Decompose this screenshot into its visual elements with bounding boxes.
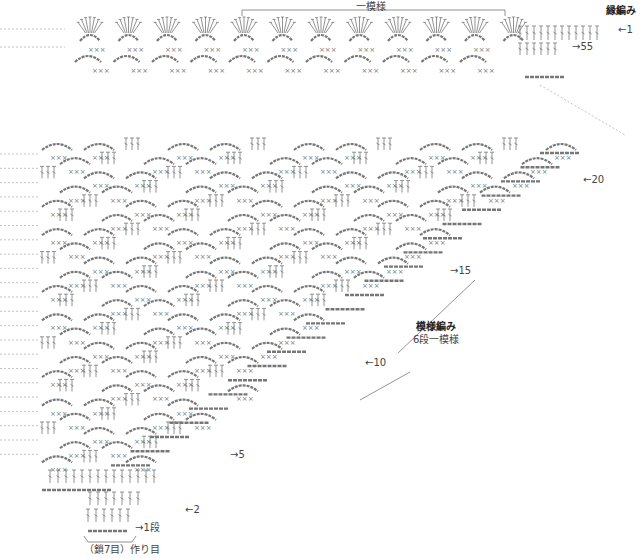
svg-text:×××: ×××	[428, 211, 446, 219]
svg-text:×××: ×××	[134, 353, 152, 361]
svg-text:×××: ×××	[110, 197, 128, 205]
svg-text:×××: ×××	[435, 46, 453, 54]
svg-text:×××: ×××	[152, 424, 170, 432]
svg-text:×××: ×××	[236, 395, 254, 403]
svg-text:×××: ×××	[278, 168, 296, 176]
svg-text:×××: ×××	[386, 268, 404, 276]
svg-text:×××: ×××	[470, 154, 488, 162]
svg-text:×××: ×××	[208, 67, 226, 75]
svg-text:×××: ×××	[152, 253, 170, 261]
svg-text:×××: ×××	[285, 67, 303, 75]
foundation-label: （鎖7目）作り目	[84, 545, 160, 555]
svg-text:×××: ×××	[236, 282, 254, 290]
svg-text:×××: ×××	[439, 67, 457, 75]
svg-text:×××: ×××	[362, 225, 380, 233]
row-marker-15: →15	[450, 266, 471, 276]
svg-text:×××: ×××	[344, 154, 362, 162]
svg-text:×××: ×××	[400, 67, 418, 75]
svg-text:×××: ×××	[218, 239, 236, 247]
svg-text:×××: ×××	[218, 154, 236, 162]
svg-text:×××: ×××	[92, 324, 110, 332]
svg-text:×××: ×××	[194, 197, 212, 205]
svg-text:×××: ×××	[68, 367, 86, 375]
svg-text:×××: ×××	[68, 452, 86, 460]
svg-text:×××: ×××	[554, 154, 572, 162]
svg-text:×××: ×××	[236, 310, 254, 318]
svg-text:×××: ×××	[404, 168, 422, 176]
svg-text:×××: ×××	[278, 253, 296, 261]
svg-text:×××: ×××	[176, 211, 194, 219]
svg-text:×××: ×××	[68, 339, 86, 347]
svg-text:×××: ×××	[152, 395, 170, 403]
svg-text:×××: ×××	[169, 67, 187, 75]
svg-text:×××: ×××	[302, 211, 320, 219]
svg-text:×××: ×××	[194, 282, 212, 290]
svg-text:×××: ×××	[194, 424, 212, 432]
svg-text:×××: ×××	[278, 310, 296, 318]
svg-text:×××: ×××	[404, 253, 422, 261]
svg-text:×××: ×××	[110, 282, 128, 290]
svg-text:×××: ×××	[194, 339, 212, 347]
svg-text:×××: ×××	[323, 67, 341, 75]
svg-text:×××: ×××	[386, 182, 404, 190]
svg-text:×××: ×××	[281, 46, 299, 54]
svg-text:×××: ×××	[260, 182, 278, 190]
svg-text:×××: ×××	[362, 67, 380, 75]
svg-text:×××: ×××	[152, 339, 170, 347]
svg-text:×××: ×××	[134, 268, 152, 276]
row-marker-1: →1段	[135, 523, 160, 533]
svg-text:×××: ×××	[358, 46, 376, 54]
svg-text:×××: ×××	[302, 296, 320, 304]
svg-text:×××: ×××	[477, 67, 495, 75]
row-marker-border-55: →55	[572, 42, 593, 52]
svg-text:×××: ×××	[110, 395, 128, 403]
svg-text:×××: ×××	[110, 452, 128, 460]
svg-text:×××: ×××	[320, 282, 338, 290]
svg-text:×××: ×××	[127, 46, 145, 54]
svg-text:×××: ×××	[246, 67, 264, 75]
svg-text:×××: ×××	[204, 46, 222, 54]
svg-text:×××: ×××	[152, 310, 170, 318]
svg-text:×××: ×××	[396, 46, 414, 54]
svg-text:×××: ×××	[344, 239, 362, 247]
svg-text:×××: ×××	[488, 197, 506, 205]
svg-text:×××: ×××	[131, 67, 149, 75]
crochet-chart: ××××××××××××××××××××××××××××××××××××××××…	[0, 0, 643, 558]
svg-text:×××: ×××	[68, 424, 86, 432]
svg-text:×××: ×××	[319, 46, 337, 54]
svg-text:×××: ×××	[362, 197, 380, 205]
svg-text:×××: ×××	[68, 197, 86, 205]
row-marker-border-1: ←1	[618, 25, 633, 35]
svg-text:×××: ×××	[278, 339, 296, 347]
svg-text:×××: ×××	[512, 182, 530, 190]
svg-text:×××: ×××	[88, 46, 106, 54]
repeat-label: 一模様	[356, 2, 386, 12]
svg-text:×××: ×××	[530, 168, 548, 176]
svg-text:×××: ×××	[176, 381, 194, 389]
svg-text:×××: ×××	[134, 182, 152, 190]
svg-text:×××: ×××	[134, 438, 152, 446]
border-title: 縁編み	[606, 6, 636, 16]
svg-text:×××: ×××	[473, 46, 491, 54]
svg-text:×××: ×××	[446, 168, 464, 176]
svg-text:×××: ×××	[362, 282, 380, 290]
row-marker-5: →5	[230, 450, 245, 460]
svg-text:×××: ×××	[165, 46, 183, 54]
svg-text:×××: ×××	[404, 225, 422, 233]
svg-text:×××: ×××	[50, 381, 68, 389]
svg-text:×××: ×××	[194, 168, 212, 176]
svg-text:×××: ×××	[50, 296, 68, 304]
svg-text:×××: ×××	[68, 168, 86, 176]
svg-text:×××: ×××	[218, 324, 236, 332]
svg-text:×××: ×××	[242, 46, 260, 54]
svg-text:×××: ×××	[278, 225, 296, 233]
body-subtitle: 6段一模様	[413, 335, 459, 345]
svg-text:×××: ×××	[92, 239, 110, 247]
svg-text:×××: ×××	[302, 324, 320, 332]
row-marker-20: ←20	[583, 175, 604, 185]
body-title: 模様編み	[416, 322, 456, 332]
svg-text:×××: ×××	[428, 239, 446, 247]
svg-text:×××: ×××	[152, 168, 170, 176]
svg-text:×××: ×××	[152, 225, 170, 233]
svg-text:×××: ×××	[92, 67, 110, 75]
